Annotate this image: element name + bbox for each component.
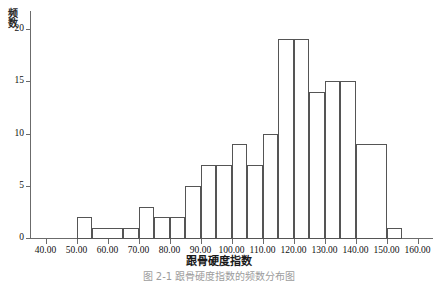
histogram-bar xyxy=(387,228,403,239)
x-axis-title: 跟骨硬度指数 xyxy=(0,256,438,268)
x-tick-label: 120.00 xyxy=(280,245,306,255)
x-tick-mark xyxy=(356,239,357,244)
x-tick-mark xyxy=(139,239,140,244)
x-tick-label: 160.00 xyxy=(404,245,430,255)
x-tick-mark xyxy=(325,239,326,244)
histogram-bar xyxy=(232,144,248,239)
x-tick-label: 70.00 xyxy=(128,245,149,255)
y-tick-mark xyxy=(26,134,30,135)
histogram-bar xyxy=(216,165,232,239)
y-tick-label: 0 xyxy=(19,233,24,243)
histogram-bar xyxy=(154,217,170,239)
histogram-bar xyxy=(185,186,201,239)
x-tick-label: 80.00 xyxy=(159,245,180,255)
histogram-bar xyxy=(77,217,93,239)
histogram-bar xyxy=(340,81,356,239)
histogram-bar xyxy=(92,228,123,239)
x-tick-mark xyxy=(108,239,109,244)
x-tick-label: 50.00 xyxy=(66,245,87,255)
figure-caption: 图 2-1 跟骨硬度指数的频数分布图 xyxy=(0,271,438,282)
y-axis-line xyxy=(30,11,31,239)
x-tick-mark xyxy=(232,239,233,244)
x-tick-label: 110.00 xyxy=(250,245,276,255)
y-tick-label: 15 xyxy=(15,76,25,86)
x-tick-label: 40.00 xyxy=(35,245,56,255)
y-tick-label: 20 xyxy=(15,24,25,34)
x-tick-mark xyxy=(170,239,171,244)
x-tick-label: 60.00 xyxy=(97,245,118,255)
y-tick-mark xyxy=(26,29,30,30)
y-tick-mark xyxy=(26,238,30,239)
x-tick-mark xyxy=(201,239,202,244)
x-tick-mark xyxy=(418,239,419,244)
histogram-bar xyxy=(356,144,387,239)
y-tick-label: 5 xyxy=(19,181,24,191)
x-tick-label: 150.00 xyxy=(373,245,399,255)
histogram-bar xyxy=(139,207,155,239)
x-tick-mark xyxy=(387,239,388,244)
x-tick-label: 100.00 xyxy=(218,245,244,255)
y-tick-mark xyxy=(26,186,30,187)
x-tick-label: 140.00 xyxy=(342,245,368,255)
x-tick-label: 130.00 xyxy=(311,245,337,255)
x-tick-mark xyxy=(263,239,264,244)
histogram-bar xyxy=(309,92,325,239)
x-tick-mark xyxy=(294,239,295,244)
histogram-bar xyxy=(263,134,279,240)
y-tick-label: 10 xyxy=(15,129,25,139)
histogram-bar xyxy=(325,81,341,239)
x-tick-label: 90.00 xyxy=(190,245,211,255)
y-tick-mark xyxy=(26,81,30,82)
x-tick-mark xyxy=(77,239,78,244)
histogram-bar xyxy=(170,217,186,239)
x-tick-mark xyxy=(46,239,47,244)
histogram-bar xyxy=(201,165,217,239)
histogram-bar xyxy=(294,39,310,239)
histogram-bar xyxy=(278,39,294,239)
histogram-bar xyxy=(123,228,139,239)
histogram-bar xyxy=(247,165,263,239)
